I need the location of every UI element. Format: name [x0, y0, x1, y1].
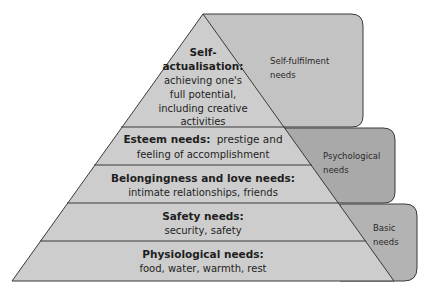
- tier-description: intimate relationships, friends: [128, 187, 278, 198]
- maslow-hierarchy-diagram: Self- actualisation: achieving one's ful…: [0, 0, 427, 290]
- category-label: needs: [270, 70, 296, 80]
- category-label: needs: [373, 237, 399, 247]
- tier-description: achieving one's: [164, 75, 242, 86]
- tier-title: Esteem needs:: [123, 133, 210, 145]
- category-label: needs: [323, 165, 349, 175]
- tier-title: Self-: [189, 46, 216, 58]
- tier-description: security, safety: [164, 225, 241, 236]
- tier-title: Safety needs:: [162, 210, 244, 222]
- tier-title: actualisation:: [163, 60, 244, 72]
- tier-title-line: Esteem needs: prestige and: [123, 133, 282, 145]
- tier-description: prestige and: [217, 133, 283, 145]
- tier-title: Belongingness and love needs:: [111, 172, 295, 184]
- tier-description: food, water, warmth, rest: [139, 263, 266, 274]
- category-label: Basic: [373, 223, 396, 233]
- tier-title: Physiological needs:: [142, 248, 263, 260]
- category-label: Self-fulfilment: [270, 56, 330, 66]
- tier-description: feeling of accomplishment: [137, 149, 270, 160]
- tier-description: full potential,: [170, 89, 236, 100]
- category-label: Psychological: [323, 151, 380, 161]
- tier-description: activities: [180, 116, 225, 127]
- tier-description: including creative: [158, 103, 247, 114]
